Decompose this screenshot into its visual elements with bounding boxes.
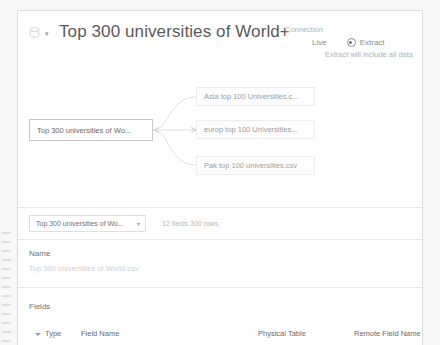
union-child-node-3-label: Pak top 100 universities.csv <box>204 161 297 170</box>
column-header-physical-table[interactable]: Physical Table <box>258 329 306 338</box>
name-label: Name <box>29 249 139 258</box>
radio-live-icon <box>301 39 308 46</box>
connection-live-option[interactable]: Live <box>301 38 327 47</box>
connection-label: Connection <box>285 25 413 34</box>
column-header-field-name[interactable]: Field Name <box>81 329 119 338</box>
data-source-card: ▾ Top 300 universities of World+ Connect… <box>17 10 423 345</box>
connection-live-label: Live <box>312 38 327 47</box>
union-child-node-2[interactable]: europ top 100 Universities... <box>196 120 315 139</box>
table-select-dropdown[interactable]: Top 300 universities of Wo... ▾ <box>29 215 146 232</box>
union-main-node[interactable]: Top 300 universities of Wo... <box>29 119 153 141</box>
union-diagram: Top 300 universities of Wo... Asia top 1… <box>18 73 423 205</box>
page-title: Top 300 universities of World+ <box>59 22 290 42</box>
connection-extract-label: Extract <box>360 38 385 47</box>
row-count-meta: 12 fields 300 rows <box>162 220 218 227</box>
table-select-row: Top 300 universities of Wo... ▾ 12 field… <box>18 207 422 239</box>
union-child-node-2-label: europ top 100 Universities... <box>204 125 297 134</box>
union-main-node-label: Top 300 universities of Wo... <box>37 126 131 135</box>
table-select-value: Top 300 universities of Wo... <box>36 220 124 227</box>
radio-extract-icon <box>347 38 356 47</box>
name-section: Name Top 300 universities of World.csv <box>29 249 139 273</box>
fields-table-header: Type Field Name Physical Table Remote Fi… <box>18 329 422 345</box>
header: ▾ Top 300 universities of World+ Connect… <box>18 11 422 73</box>
divider-bottom <box>18 287 422 288</box>
title-row: ▾ Top 300 universities of World+ <box>29 22 290 42</box>
left-edge-artifact <box>2 232 11 342</box>
divider-middle <box>18 239 422 240</box>
union-child-node-3[interactable]: Pak top 100 universities.csv <box>196 156 315 175</box>
sort-caret-icon[interactable] <box>35 333 41 336</box>
column-header-remote-field-name[interactable]: Remote Field Name <box>354 329 421 338</box>
column-header-type[interactable]: Type <box>45 329 61 338</box>
database-icon <box>29 27 40 38</box>
name-input[interactable]: Top 300 universities of World.csv <box>29 264 139 273</box>
connection-options: Live Extract <box>285 38 413 47</box>
connection-extract-option[interactable]: Extract <box>347 38 385 47</box>
union-child-node-1-label: Asia top 100 Universities.c... <box>204 92 299 101</box>
fields-label: Fields <box>29 302 50 311</box>
connection-note: Extract will include all data <box>285 50 413 59</box>
connection-panel: Connection Live Extract Extract will inc… <box>285 25 413 59</box>
union-child-node-1[interactable]: Asia top 100 Universities.c... <box>196 87 315 106</box>
chevron-down-icon[interactable]: ▾ <box>45 30 49 37</box>
chevron-down-icon: ▾ <box>137 220 140 227</box>
